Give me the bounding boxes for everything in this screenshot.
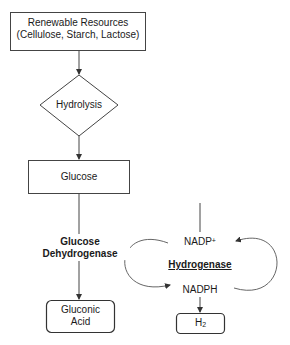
glucose-dehydrogenase-line2: Dehydrogenase (30, 248, 130, 260)
nadp-plus-label: NADP+ (170, 236, 230, 248)
renewable-resources-line2: (Cellulose, Starch, Lactose) (10, 29, 146, 41)
renewable-resources-line1: Renewable Resources (10, 17, 146, 29)
nadp-base: NADP (184, 236, 212, 247)
h2-label: H2 (176, 317, 225, 329)
glucose-dehydrogenase-label: Glucose Dehydrogenase (30, 236, 130, 260)
gluconic-acid-line2: Acid (46, 316, 115, 328)
hydrogenase-label: Hydrogenase (160, 259, 240, 271)
renewable-resources-label: Renewable Resources (Cellulose, Starch, … (10, 17, 146, 41)
glucose-label: Glucose (28, 171, 130, 183)
glucose-dehydrogenase-line1: Glucose (30, 236, 130, 248)
nadph-label: NADPH (170, 284, 230, 296)
gluconic-acid-label: Gluconic Acid (46, 304, 115, 328)
gluconic-acid-line1: Gluconic (46, 304, 115, 316)
nadp-superscript: + (212, 237, 216, 244)
cycle-arc-right (234, 238, 277, 290)
h2-subscript: 2 (202, 321, 206, 328)
hydrolysis-label: Hydrolysis (40, 99, 118, 111)
